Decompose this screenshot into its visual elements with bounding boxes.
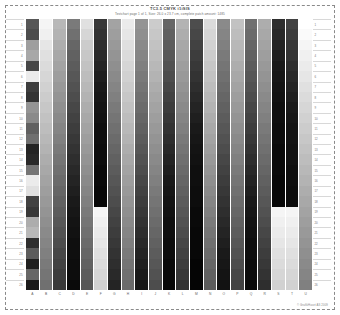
row-label: 26 (6, 280, 24, 290)
color-patch (190, 82, 203, 92)
color-patch (163, 227, 176, 237)
row-label: 12 (6, 134, 24, 144)
color-patch (26, 238, 39, 248)
color-patch (108, 19, 121, 29)
color-patch (163, 82, 176, 92)
patch-column (40, 19, 53, 290)
color-patch (94, 61, 107, 71)
color-patch (149, 82, 162, 92)
color-patch (40, 248, 53, 258)
color-patch (299, 134, 312, 144)
color-patch (204, 134, 217, 144)
patch-column (176, 19, 189, 290)
color-patch (40, 40, 53, 50)
color-patch (272, 71, 285, 81)
color-patch (176, 154, 189, 164)
color-patch (81, 92, 94, 102)
patch-column (163, 19, 176, 290)
row-label: 18 (6, 196, 24, 206)
color-patch (217, 165, 230, 175)
color-patch (67, 40, 80, 50)
color-patch (299, 227, 312, 237)
color-patch (67, 61, 80, 71)
color-patch (204, 102, 217, 112)
color-patch (258, 61, 271, 71)
color-patch (190, 196, 203, 206)
color-patch (163, 196, 176, 206)
row-label: 16 (313, 175, 331, 185)
color-patch (94, 217, 107, 227)
color-patch (299, 61, 312, 71)
color-patch (286, 92, 299, 102)
color-patch (190, 207, 203, 217)
color-patch (245, 113, 258, 123)
color-patch (231, 19, 244, 29)
color-patch (67, 207, 80, 217)
patch-column (245, 19, 258, 290)
color-patch (258, 175, 271, 185)
row-label: 8 (313, 92, 331, 102)
color-patch (26, 29, 39, 39)
color-patch (135, 207, 148, 217)
color-patch (40, 123, 53, 133)
color-patch (26, 123, 39, 133)
row-label: 24 (313, 259, 331, 269)
color-patch (286, 217, 299, 227)
color-patch (81, 217, 94, 227)
color-patch (163, 61, 176, 71)
color-patch (204, 71, 217, 81)
color-patch (26, 113, 39, 123)
color-patch (94, 71, 107, 81)
color-patch (176, 165, 189, 175)
color-patch (81, 102, 94, 112)
color-patch (53, 269, 66, 279)
color-patch (81, 175, 94, 185)
color-patch (149, 269, 162, 279)
color-patch (149, 40, 162, 50)
color-patch (53, 40, 66, 50)
color-patch (217, 207, 230, 217)
color-patch (245, 238, 258, 248)
color-patch (135, 227, 148, 237)
row-label: 7 (313, 82, 331, 92)
color-patch (204, 29, 217, 39)
color-patch (122, 50, 135, 60)
color-patch (258, 113, 271, 123)
column-label: K (163, 292, 176, 301)
color-patch (122, 92, 135, 102)
color-patch (149, 61, 162, 71)
color-patch (231, 175, 244, 185)
color-patch (286, 123, 299, 133)
color-patch (258, 259, 271, 269)
color-patch (286, 61, 299, 71)
color-patch (53, 186, 66, 196)
color-patch (231, 71, 244, 81)
color-patch (190, 40, 203, 50)
color-patch (245, 186, 258, 196)
color-patch (40, 113, 53, 123)
color-patch (40, 269, 53, 279)
row-label: 19 (6, 207, 24, 217)
color-patch (53, 238, 66, 248)
color-patch (245, 259, 258, 269)
color-patch (149, 165, 162, 175)
color-patch (286, 259, 299, 269)
color-patch (258, 217, 271, 227)
color-patch (272, 238, 285, 248)
color-patch (217, 186, 230, 196)
color-patch (258, 144, 271, 154)
row-label: 26 (313, 280, 331, 290)
color-patch (149, 280, 162, 290)
color-patch (108, 29, 121, 39)
color-patch (272, 217, 285, 227)
color-patch (204, 92, 217, 102)
color-patch (176, 92, 189, 102)
patch-column (190, 19, 203, 290)
color-patch (286, 102, 299, 112)
color-patch (176, 134, 189, 144)
color-patch (217, 259, 230, 269)
color-patch (40, 71, 53, 81)
color-patch (231, 217, 244, 227)
color-patch (245, 154, 258, 164)
color-patch (122, 102, 135, 112)
